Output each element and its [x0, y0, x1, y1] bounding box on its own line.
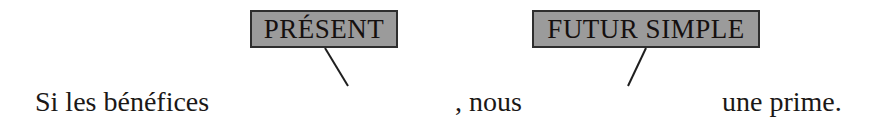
tense-label-present-text: PRÉSENT [264, 16, 385, 43]
tense-label-present[interactable]: PRÉSENT [250, 10, 398, 48]
sentence-row: Si les bénéfices augmentent , nous recev… [0, 76, 891, 128]
sentence-clause-end: une prime. [722, 76, 842, 128]
sentence-clause-start: Si les bénéfices [35, 76, 209, 128]
tense-label-futur-simple-text: FUTUR SIMPLE [547, 16, 744, 43]
sentence-middle-text: , nous [455, 76, 522, 128]
tense-label-futur-simple[interactable]: FUTUR SIMPLE [532, 10, 760, 48]
grammar-diagram: PRÉSENT FUTUR SIMPLE Si les bénéfices au… [0, 0, 891, 136]
